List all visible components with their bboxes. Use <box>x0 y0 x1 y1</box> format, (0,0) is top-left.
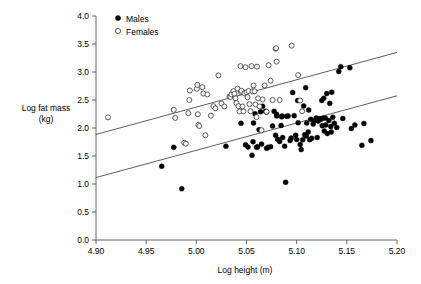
y-axis-label-line2: (kg) <box>39 114 54 124</box>
data-point-female <box>183 141 188 146</box>
data-point-female <box>270 98 275 103</box>
data-point-female <box>300 109 305 114</box>
data-point-male <box>159 164 164 169</box>
data-point-male <box>259 141 264 146</box>
data-point-male <box>329 129 334 134</box>
data-point-male <box>299 147 304 152</box>
data-point-male <box>251 139 256 144</box>
data-point-female <box>259 128 264 133</box>
data-point-female <box>171 107 176 112</box>
data-point-male <box>268 144 273 149</box>
data-point-female <box>260 97 265 102</box>
data-point-male <box>282 144 287 149</box>
data-point-male <box>327 101 332 106</box>
data-point-male <box>315 135 320 140</box>
y-axis-tick-label: 3.5 <box>77 39 89 49</box>
data-point-male <box>347 65 352 70</box>
data-point-male <box>286 113 291 118</box>
data-point-male <box>304 120 309 125</box>
data-point-male <box>279 123 284 128</box>
x-axis-tick-label: 4.90 <box>88 246 105 256</box>
data-point-female <box>106 115 111 120</box>
data-point-male <box>250 153 255 158</box>
y-axis-tick-label: 4.0 <box>77 11 89 21</box>
legend-label-females: Females <box>126 27 159 37</box>
data-point-female <box>213 106 218 111</box>
data-point-male <box>359 143 364 148</box>
data-point-male <box>330 115 335 120</box>
data-point-female <box>298 98 303 103</box>
data-point-female <box>187 98 192 103</box>
data-point-male <box>368 138 373 143</box>
data-point-female <box>195 82 200 87</box>
legend-marker-females <box>115 28 120 33</box>
data-point-female <box>173 115 178 120</box>
data-point-male <box>336 69 341 74</box>
data-point-male <box>340 116 345 121</box>
y-axis-label-line1: Log fat mass <box>22 103 71 113</box>
data-point-male <box>258 109 263 114</box>
data-point-female <box>262 83 267 88</box>
y-axis-tick-label: 0.5 <box>77 207 89 217</box>
data-point-male <box>179 186 184 191</box>
y-axis-tick-label: 1.0 <box>77 179 89 189</box>
data-point-male <box>324 91 329 96</box>
data-point-female <box>195 112 200 117</box>
data-point-female <box>247 102 252 107</box>
y-axis-tick-label: 0.0 <box>77 235 89 245</box>
legend-label-males: Males <box>126 14 149 24</box>
y-axis-tick-label: 3.0 <box>77 67 89 77</box>
data-point-female <box>266 63 271 68</box>
data-point-male <box>306 108 311 113</box>
data-point-male <box>321 96 326 101</box>
data-point-male <box>306 129 311 134</box>
data-point-female <box>238 64 243 69</box>
data-point-male <box>280 135 285 140</box>
x-axis-label: Log height (m) <box>180 265 310 276</box>
x-axis-tick-label: 5.10 <box>288 246 305 256</box>
data-point-male <box>298 142 303 147</box>
data-point-female <box>252 89 257 94</box>
data-point-female <box>268 78 273 83</box>
data-point-female <box>264 109 269 114</box>
data-point-female <box>249 64 254 69</box>
scatter-plot-figure: 0.00.51.01.52.02.53.03.54.04.904.955.005… <box>0 0 421 284</box>
data-point-female <box>289 43 294 48</box>
data-point-female <box>216 73 221 78</box>
data-point-male <box>283 180 288 185</box>
data-point-male <box>238 121 243 126</box>
data-point-male <box>309 136 314 141</box>
data-point-male <box>292 113 297 118</box>
data-point-male <box>301 103 306 108</box>
data-point-female <box>243 65 248 70</box>
y-axis-tick-label: 1.5 <box>77 151 89 161</box>
legend-marker-males <box>115 15 120 20</box>
data-point-female <box>257 104 262 109</box>
x-axis-tick-label: 5.00 <box>188 246 205 256</box>
data-point-male <box>246 145 251 150</box>
data-point-male <box>352 122 357 127</box>
data-point-male <box>290 90 295 95</box>
data-point-female <box>296 73 301 78</box>
data-point-male <box>270 124 275 129</box>
x-axis-tick-label: 5.15 <box>339 246 356 256</box>
plot-area: 0.00.51.01.52.02.53.03.54.04.904.955.005… <box>77 11 405 256</box>
data-point-female <box>240 104 245 109</box>
data-point-female <box>248 109 253 114</box>
data-point-female <box>233 96 238 101</box>
data-point-female <box>274 46 279 51</box>
data-point-male <box>329 90 334 95</box>
data-point-female <box>186 111 191 116</box>
data-point-male <box>274 113 279 118</box>
data-point-female <box>277 98 282 103</box>
data-point-male <box>303 85 308 90</box>
data-point-female <box>245 95 250 100</box>
regression-line <box>96 96 397 178</box>
x-axis-tick-label: 5.20 <box>389 246 406 256</box>
data-point-female <box>254 115 259 120</box>
x-axis-tick-label: 4.95 <box>138 246 155 256</box>
data-point-female <box>255 64 260 69</box>
data-point-male <box>289 136 294 141</box>
data-point-male <box>296 120 301 125</box>
x-axis-tick-label: 5.05 <box>238 246 255 256</box>
